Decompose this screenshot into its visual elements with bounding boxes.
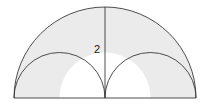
figure-canvas: 2 (0, 0, 210, 106)
height-label: 2 (94, 43, 100, 55)
geometry-figure: 2 (0, 0, 210, 106)
